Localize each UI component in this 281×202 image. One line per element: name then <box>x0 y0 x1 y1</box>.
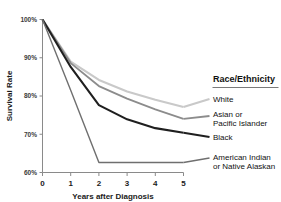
x-axis-ticks <box>43 173 184 177</box>
x-axis-tick-labels: 0 1 2 3 4 5 <box>40 179 186 188</box>
legend-item-american-indian-native-alaskan: American Indian <box>213 153 271 162</box>
legend-leader-lines <box>184 99 210 163</box>
leader-line-asian-or-pacific-islander <box>184 116 210 119</box>
series-line-american-indian-or-native-alaskan <box>43 20 184 163</box>
legend-item-black: Black <box>213 133 234 142</box>
y-tick-label: 70% <box>24 131 37 138</box>
x-tick-label: 0 <box>40 179 45 188</box>
y-tick-label: 80% <box>24 92 37 99</box>
x-tick-label: 2 <box>97 179 102 188</box>
series-line-white <box>43 20 184 108</box>
legend-item-asian-pacific-islander: Asian or <box>213 110 243 119</box>
legend-item-asian-pacific-islander-line2: Pacific Islander <box>213 119 268 128</box>
leader-line-american-indian-or-native-alaskan <box>184 158 210 163</box>
x-tick-label: 4 <box>153 179 158 188</box>
legend-item-american-indian-native-alaskan-line2: or Native Alaskan <box>213 162 275 171</box>
x-tick-label: 3 <box>125 179 130 188</box>
legend-title: Race/Ethnicity <box>213 74 275 84</box>
series-group <box>43 20 184 163</box>
x-tick-label: 1 <box>68 179 73 188</box>
survival-rate-chart: 100% 90% 80% 70% 60% 0 1 2 3 4 5 Years a… <box>0 0 281 202</box>
y-tick-label: 90% <box>24 54 37 61</box>
x-axis-title: Years after Diagnosis <box>72 192 154 201</box>
legend-item-white: White <box>213 95 234 104</box>
series-line-asian-or-pacific-islander <box>43 20 184 119</box>
chart-canvas: 100% 90% 80% 70% 60% 0 1 2 3 4 5 Years a… <box>0 0 281 202</box>
y-axis-title: Survival Rate <box>5 70 14 121</box>
leader-line-white <box>184 99 210 107</box>
y-axis-tick-labels: 100% 90% 80% 70% 60% <box>20 16 37 176</box>
y-tick-label: 60% <box>24 169 37 176</box>
y-tick-label: 100% <box>20 16 37 23</box>
leader-line-black <box>184 133 210 137</box>
legend: Race/Ethnicity White Asian or Pacific Is… <box>184 74 279 171</box>
series-line-black <box>43 20 184 133</box>
x-tick-label: 5 <box>181 179 186 188</box>
